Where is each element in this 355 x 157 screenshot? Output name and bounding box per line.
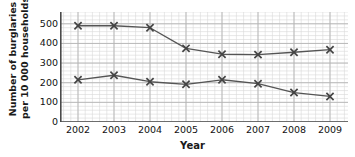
x-tick-label-2002: 2002 xyxy=(58,124,98,135)
x-axis-title: Year xyxy=(0,140,355,151)
burglaries-line-chart: Number of burglaries per 10 000 househol… xyxy=(0,0,355,157)
x-tick-label-2006: 2006 xyxy=(202,124,242,135)
plot-area xyxy=(60,12,348,122)
y-tick-label-200: 200 xyxy=(32,78,58,87)
x-tick-label-2007: 2007 xyxy=(238,124,278,135)
x-tick-label-2009: 2009 xyxy=(310,124,350,135)
y-axis-tick-labels: 0100200300400500 xyxy=(30,0,58,157)
y-tick-label-300: 300 xyxy=(32,58,58,67)
x-tick-label-2004: 2004 xyxy=(130,124,170,135)
x-axis-title-text: Year xyxy=(180,140,205,151)
data-layer xyxy=(60,12,348,122)
y-axis-title-line1: Number of burglaries xyxy=(7,0,19,119)
y-tick-label-0: 0 xyxy=(32,117,58,126)
x-tick-label-2003: 2003 xyxy=(94,124,134,135)
y-tick-label-500: 500 xyxy=(32,19,58,28)
y-tick-label-100: 100 xyxy=(32,97,58,106)
y-tick-label-400: 400 xyxy=(32,38,58,47)
x-tick-label-2008: 2008 xyxy=(274,124,314,135)
x-tick-label-2005: 2005 xyxy=(166,124,206,135)
